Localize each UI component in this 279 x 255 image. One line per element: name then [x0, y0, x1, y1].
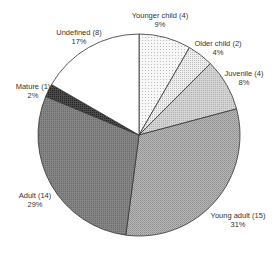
slice-label-younger-child: Younger child (4)9%: [132, 12, 188, 29]
slice-label-percent: 9%: [132, 21, 188, 30]
pie-slices: [38, 34, 240, 236]
slice-label-older-child: Older child (2)4%: [194, 40, 241, 57]
slice-label-mature: Mature (1)2%: [16, 83, 51, 100]
slice-label-percent: 2%: [16, 92, 51, 101]
slice-label-undefined: Undefined (8)17%: [56, 29, 101, 46]
slice-label-adult: Adult (14)29%: [19, 192, 52, 209]
slice-label-juvenile: Juvenile (4)8%: [225, 70, 264, 87]
slice-label-percent: 8%: [225, 79, 264, 88]
slice-label-percent: 4%: [194, 49, 241, 58]
slice-label-percent: 17%: [56, 38, 101, 47]
slice-label-young-adult: Young adult (15)31%: [211, 212, 266, 229]
slice-label-percent: 29%: [19, 201, 52, 210]
slice-label-percent: 31%: [211, 221, 266, 230]
